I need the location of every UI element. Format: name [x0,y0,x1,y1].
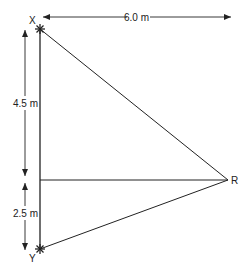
dimension-label-upper-vertical: 4.5 m [13,98,38,109]
star-icon-y [35,244,45,254]
line-y-r [40,180,228,249]
dimension-label-horizontal: 6.0 m [124,12,149,23]
point-label-y: Y [29,253,36,264]
diagram-canvas: X Y R 6.0 m 4.5 m 2.5 m [0,0,252,273]
dimension-label-lower-vertical: 2.5 m [13,208,38,219]
star-icon-x [35,24,45,34]
point-label-r: R [231,175,238,186]
point-label-x: X [29,15,36,26]
line-x-r [40,29,228,180]
